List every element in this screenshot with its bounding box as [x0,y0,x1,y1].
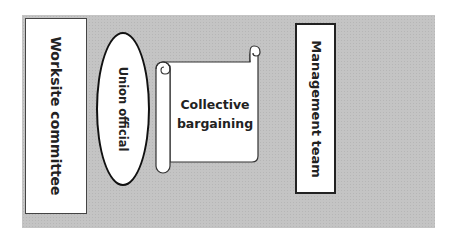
management-team-box: Management team [295,23,336,194]
union-official-ellipse: Union official [96,32,150,186]
collective-bargaining-label: Collective bargaining [172,95,258,133]
collective-bargaining-line-2: bargaining [172,114,258,133]
collective-bargaining-line-1: Collective [172,95,258,114]
management-team-label: Management team [308,40,323,178]
union-official-label: Union official [116,67,130,152]
worksite-committee-box: Worksite committee [25,18,87,214]
diagram-canvas: Worksite committee Union official Collec… [0,0,454,240]
worksite-committee-label: Worksite committee [48,36,64,195]
